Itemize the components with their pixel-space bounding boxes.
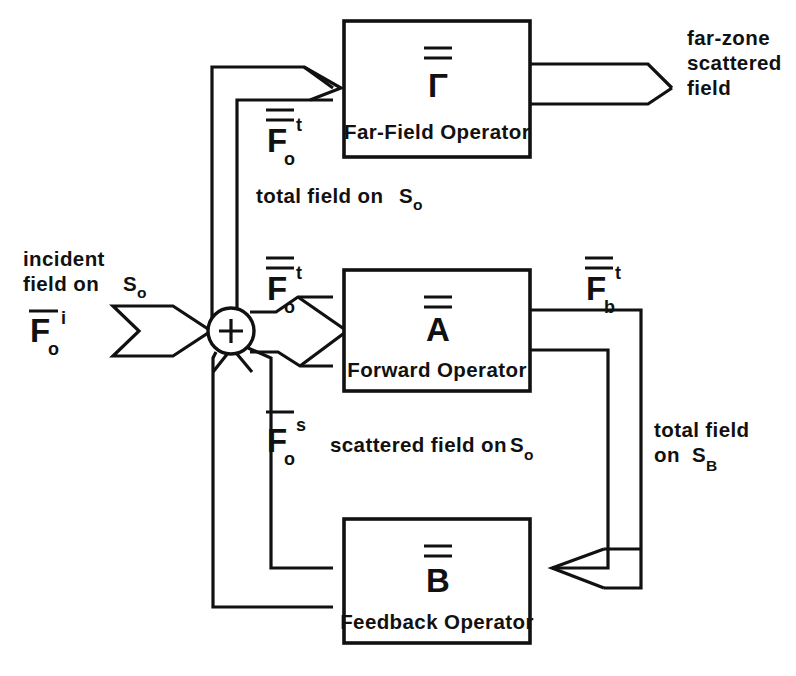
feedback-caption: Feedback Operator	[340, 610, 534, 633]
label-total-field-b: total field on S B	[654, 418, 750, 474]
scattered-symbol-sub: o	[284, 449, 295, 469]
scattered-caption-s: S	[510, 433, 524, 456]
total-b-caption-s-sub: B	[706, 457, 718, 474]
wire-incident-input	[113, 306, 211, 356]
block-feedback-operator[interactable]: B Feedback Operator	[340, 519, 534, 643]
label-total-field-top: total field on S o	[256, 184, 423, 213]
symbol-incident-F: F o i	[29, 308, 66, 359]
total-top-symbol-sup: t	[296, 115, 302, 135]
total-mid-symbol-sub: o	[284, 297, 295, 317]
wire-forward-to-feedback	[530, 310, 641, 588]
incident-caption-line2: field on	[23, 272, 99, 295]
far-zone-line3: field	[687, 76, 731, 99]
symbol-total-field-top: F o t	[266, 110, 302, 169]
far-zone-line2: scattered	[687, 51, 782, 74]
scattered-caption-s-sub: o	[524, 446, 534, 463]
scattered-symbol-sup: s	[296, 415, 306, 435]
block-far-field-operator[interactable]: Γ Far-Field Operator	[344, 21, 530, 157]
wire-feedback-to-sum	[213, 348, 333, 607]
feedback-symbol: B	[426, 562, 450, 599]
incident-caption-s: S	[123, 272, 137, 295]
label-incident-field: incident field on S o	[23, 247, 147, 301]
incident-caption-s-sub: o	[137, 284, 147, 301]
block-forward-operator[interactable]: A Forward Operator	[344, 270, 530, 391]
label-far-zone-field: far-zone scattered field	[687, 26, 782, 99]
total-b-caption-line2: on	[654, 443, 680, 466]
far-zone-line1: far-zone	[687, 26, 770, 49]
wire-far-field-output	[530, 64, 672, 104]
symbol-total-field-mid: F o t	[266, 258, 302, 317]
total-b-caption-s: S	[692, 443, 706, 466]
total-top-symbol-sub: o	[284, 149, 295, 169]
incident-symbol-sub: o	[48, 339, 59, 359]
incident-caption-line1: incident	[23, 247, 105, 270]
symbol-total-field-b: F b t	[585, 258, 621, 317]
block-diagram: Γ Far-Field Operator A Forward Operator …	[0, 0, 796, 676]
total-top-caption-s: S	[399, 184, 413, 207]
forward-caption: Forward Operator	[347, 358, 527, 381]
total-mid-symbol-sup: t	[296, 263, 302, 283]
label-scattered-field: scattered field on S o	[330, 433, 534, 463]
incident-symbol-sup: i	[61, 308, 66, 328]
total-top-caption: total field on	[256, 184, 383, 207]
total-b-symbol-sub: b	[604, 297, 615, 317]
forward-symbol: A	[426, 311, 450, 348]
total-b-caption-line1: total field	[654, 418, 750, 441]
summing-junction[interactable]	[208, 308, 254, 354]
far-field-symbol: Γ	[428, 67, 448, 104]
scattered-caption: scattered field on	[330, 433, 507, 456]
total-b-symbol-sup: t	[615, 263, 621, 283]
total-top-caption-s-sub: o	[413, 196, 423, 213]
far-field-caption: Far-Field Operator	[344, 120, 530, 143]
